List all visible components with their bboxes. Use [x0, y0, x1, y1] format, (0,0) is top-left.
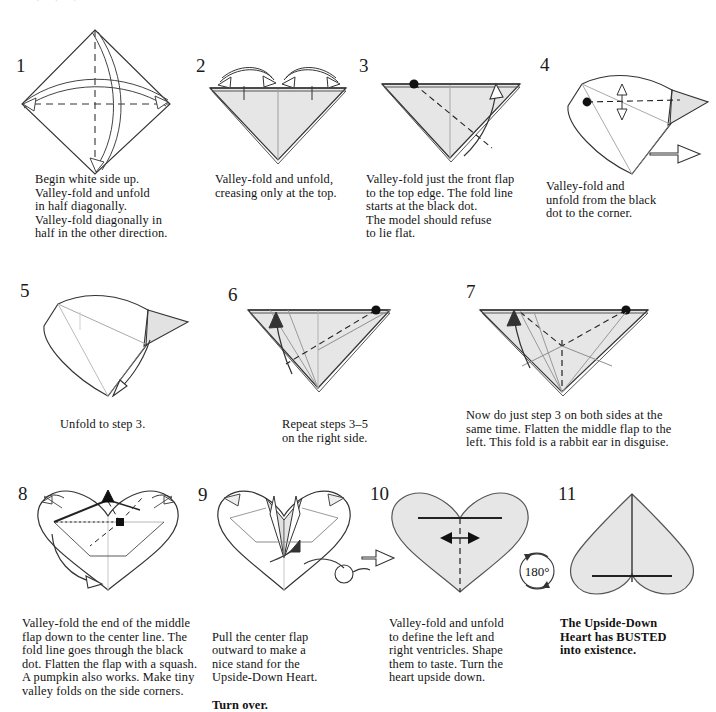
- caption-step-4: Valley-fold and unfold from the black do…: [546, 180, 706, 221]
- figure-step-2: [198, 60, 358, 170]
- step-number-7: 7: [466, 282, 476, 301]
- caption-step-3: Valley-fold just the front flap to the t…: [366, 173, 551, 241]
- figure-step-11: [558, 490, 708, 602]
- figure-step-5: [20, 286, 200, 404]
- rotate-label: 180°: [525, 564, 550, 579]
- figure-step-6: [230, 300, 402, 402]
- step-number-9: 9: [198, 485, 208, 504]
- rotate-180-icon: 180°: [512, 548, 562, 594]
- figure-step-3: [372, 72, 532, 172]
- caption-step-8: Valley-fold the end of the middle flap d…: [22, 617, 242, 699]
- step-number-8: 8: [18, 484, 28, 503]
- caption-step-10: Valley-fold and unfold to define the lef…: [389, 617, 559, 685]
- caption-step-7: Now do just step 3 on both sides at the …: [466, 409, 716, 450]
- push-arrow-icon-step-10: [362, 545, 398, 569]
- figure-step-7: [462, 300, 658, 404]
- caption-step-11: The Upside-Down Heart has BUSTED into ex…: [560, 617, 710, 658]
- figure-step-1: [10, 22, 180, 172]
- top-partial-text: · · ·: [36, 0, 83, 6]
- caption-step-6: Repeat steps 3–5 on the right side.: [282, 418, 442, 445]
- figure-step-8: [28, 484, 193, 596]
- push-arrow-icon-step-4: [648, 140, 704, 166]
- caption-step-9-turn-over: Turn over.: [212, 698, 268, 712]
- step-number-3: 3: [359, 56, 369, 75]
- caption-step-2: Valley-fold and unfold, creasing only at…: [215, 173, 385, 200]
- caption-step-1: Begin white side up. Valley-fold and unf…: [35, 173, 205, 241]
- caption-step-5: Unfold to step 3.: [60, 418, 240, 432]
- caption-step-9: Pull the center flap outward to make a n…: [212, 630, 317, 685]
